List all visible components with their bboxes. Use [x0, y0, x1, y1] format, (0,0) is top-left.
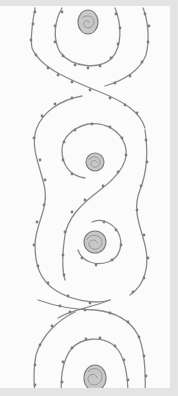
- spiral-center-upper-middle: [86, 153, 104, 171]
- sketch-paper: Pencil sketch of a vertical quilting/emb…: [0, 6, 170, 388]
- outer-curve-right-middle: [130, 130, 147, 295]
- spiral-center-top: [78, 10, 98, 34]
- spiral-bottom-outer: [34, 312, 75, 388]
- spiral-center-bottom: [84, 365, 106, 388]
- outer-curve-top-right: [105, 8, 148, 86]
- spiral-border-drawing: [0, 6, 170, 388]
- crossover-upper: [34, 96, 110, 302]
- spiral-center-lower-middle: [84, 231, 106, 253]
- image-frame: Pencil sketch of a vertical quilting/emb…: [0, 0, 178, 396]
